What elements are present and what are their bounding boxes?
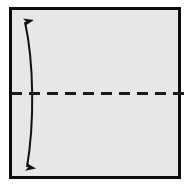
diagram-canvas: Folded sheet with horizontal fold line a… xyxy=(0,0,193,192)
fold-diagram-svg xyxy=(0,0,193,192)
